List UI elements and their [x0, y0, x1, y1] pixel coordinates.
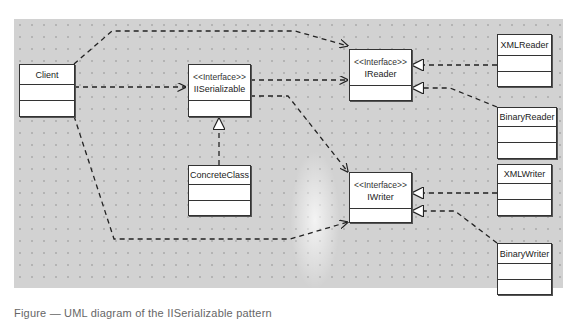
class-concreteclass[interactable]: ConcreteClass	[188, 165, 251, 216]
attributes-compartment	[498, 184, 551, 200]
class-binaryreader[interactable]: BinaryReader	[497, 107, 557, 159]
class-name: ConcreteClass	[190, 169, 249, 181]
class-name: IISerializable	[194, 83, 246, 95]
attributes-compartment	[189, 185, 250, 201]
class-name: Client	[35, 69, 58, 81]
class-name: IWriter	[367, 191, 393, 203]
dep-client-ireader	[74, 31, 348, 64]
operations-compartment	[498, 280, 551, 295]
class-header: XMLReader	[498, 35, 551, 56]
operations-compartment	[498, 143, 556, 158]
class-name: BinaryReader	[499, 111, 554, 123]
operations-compartment	[189, 101, 250, 116]
stereotype-label: <<Interface>>	[193, 71, 246, 83]
class-name: XMLReader	[500, 39, 548, 51]
attributes-compartment	[498, 127, 556, 143]
operations-compartment	[498, 200, 551, 215]
class-xmlwriter[interactable]: XMLWriter	[497, 164, 552, 216]
class-header: BinaryWriter	[498, 244, 551, 264]
class-name: BinaryWriter	[500, 248, 549, 260]
dep-iserializable-iwriter	[250, 96, 348, 172]
interface-ireader[interactable]: <<Interface>> IReader	[349, 49, 412, 101]
class-name: IReader	[364, 68, 396, 80]
operations-compartment	[20, 101, 74, 116]
class-header: Client	[20, 65, 74, 85]
class-binarywriter[interactable]: BinaryWriter	[497, 243, 552, 295]
operations-compartment	[498, 72, 551, 87]
interface-iwriter[interactable]: <<Interface>> IWriter	[349, 172, 412, 223]
operations-compartment	[189, 201, 250, 216]
attributes-compartment	[498, 56, 551, 72]
real-binarywriter-iwriter	[412, 211, 497, 243]
class-xmlreader[interactable]: XMLReader	[497, 34, 552, 87]
interface-iserializable[interactable]: <<Interface>> IISerializable	[188, 64, 251, 117]
class-header: XMLWriter	[498, 165, 551, 184]
class-header: ConcreteClass	[189, 166, 250, 185]
class-header: <<Interface>> IISerializable	[189, 65, 250, 101]
operations-compartment	[350, 86, 411, 100]
class-client[interactable]: Client	[19, 64, 75, 117]
stereotype-label: <<Interface>>	[354, 56, 407, 68]
class-header: <<Interface>> IReader	[350, 50, 411, 86]
attributes-compartment	[498, 264, 551, 280]
class-header: <<Interface>> IWriter	[350, 173, 411, 209]
real-binaryreader-ireader	[412, 88, 497, 107]
class-name: XMLWriter	[504, 168, 546, 180]
figure-caption: Figure — UML diagram of the IISerializab…	[14, 307, 272, 319]
operations-compartment	[350, 209, 411, 222]
attributes-compartment	[20, 85, 74, 101]
stereotype-label: <<Interface>>	[354, 179, 407, 191]
class-header: BinaryReader	[498, 108, 556, 127]
